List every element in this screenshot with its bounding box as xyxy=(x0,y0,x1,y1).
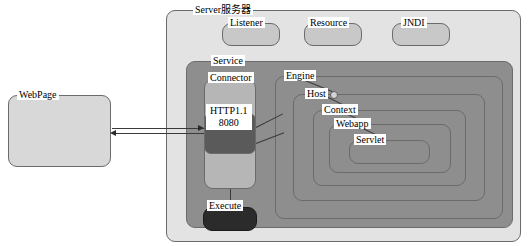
node-resource-label: Resource xyxy=(308,17,349,28)
node-webpage[interactable] xyxy=(8,95,111,167)
edge-webpage-to-connector xyxy=(112,128,204,129)
node-host-label: Host xyxy=(305,88,328,99)
diagram-canvas: WebPage Server服务器 Listener Resource JNDI… xyxy=(0,0,529,246)
node-port-protocol: HTTP1.1 xyxy=(210,105,248,117)
node-listener-label: Listener xyxy=(228,17,265,28)
node-webpage-label: WebPage xyxy=(17,89,59,100)
edge-connector-to-webpage xyxy=(112,133,204,134)
edge-connector-to-webpage-arrowhead xyxy=(110,130,116,136)
node-service-label: Service xyxy=(211,55,245,66)
edge-webpage-to-connector-arrowhead xyxy=(198,125,204,131)
node-port-label: HTTP1.1 8080 xyxy=(206,104,252,130)
host-connector-dot xyxy=(330,91,338,99)
node-port-number: 8080 xyxy=(210,117,248,129)
node-context-label: Context xyxy=(322,104,358,115)
node-webapp-label: Webapp xyxy=(334,118,371,129)
node-execute-label: Execute xyxy=(207,200,243,211)
node-server-label: Server服务器 xyxy=(193,4,253,15)
node-engine-label: Engine xyxy=(284,70,316,81)
node-jndi-label: JNDI xyxy=(401,17,427,28)
node-servlet-label: Servlet xyxy=(354,134,386,145)
node-connector-label: Connector xyxy=(208,72,254,83)
